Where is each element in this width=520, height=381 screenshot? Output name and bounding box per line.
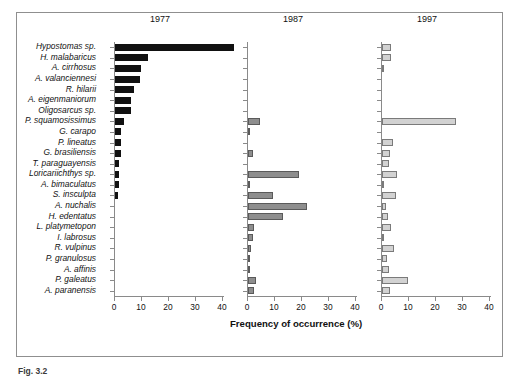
y-tick xyxy=(110,217,114,218)
bar xyxy=(248,213,283,220)
bar xyxy=(248,171,299,178)
bar xyxy=(248,266,250,273)
species-label: T. paraguayensis xyxy=(0,159,96,168)
bar xyxy=(382,118,456,125)
bar xyxy=(382,203,386,210)
species-label: Loricariichthys sp. xyxy=(0,169,96,178)
species-label: P. granulosus xyxy=(0,254,96,263)
bar xyxy=(115,150,121,157)
y-tick xyxy=(243,47,247,48)
y-tick xyxy=(377,248,381,249)
bar xyxy=(115,76,140,83)
y-tick xyxy=(377,153,381,154)
y-tick xyxy=(243,164,247,165)
bar xyxy=(382,287,390,294)
y-tick xyxy=(243,68,247,69)
plot-area-1977: 010203040 xyxy=(114,42,226,296)
x-axis-title: Frequency of occurrence (%) xyxy=(230,318,362,329)
y-tick xyxy=(377,185,381,186)
bar xyxy=(382,245,394,252)
y-tick xyxy=(377,132,381,133)
bar xyxy=(248,277,256,284)
y-tick xyxy=(110,90,114,91)
x-tick-label: 30 xyxy=(323,302,332,312)
x-tick-label: 40 xyxy=(350,302,359,312)
bar xyxy=(248,128,250,135)
y-tick xyxy=(110,164,114,165)
species-label: A. nuchalis xyxy=(0,201,96,210)
bar xyxy=(382,139,393,146)
y-tick xyxy=(110,121,114,122)
y-tick xyxy=(377,111,381,112)
y-tick xyxy=(377,206,381,207)
bar xyxy=(382,54,391,61)
species-label: Hypostomas sp. xyxy=(0,42,96,51)
bar xyxy=(382,181,384,188)
species-label: P. lineatus xyxy=(0,138,96,147)
y-tick xyxy=(377,217,381,218)
species-label: Oligosarcus sp. xyxy=(0,106,96,115)
y-tick xyxy=(243,280,247,281)
species-label: A. affinis xyxy=(0,265,96,274)
species-label: A. bimaculatus xyxy=(0,180,96,189)
x-tick xyxy=(408,297,409,301)
y-tick xyxy=(243,143,247,144)
y-tick xyxy=(243,153,247,154)
y-tick xyxy=(377,291,381,292)
y-tick xyxy=(243,121,247,122)
y-tick xyxy=(243,238,247,239)
x-tick-label: 0 xyxy=(245,302,250,312)
y-tick xyxy=(110,259,114,260)
y-tick xyxy=(243,248,247,249)
y-tick xyxy=(377,227,381,228)
y-tick xyxy=(377,280,381,281)
x-tick xyxy=(274,297,275,301)
y-tick xyxy=(110,206,114,207)
bar xyxy=(382,224,391,231)
x-axis xyxy=(247,296,357,297)
y-tick xyxy=(110,68,114,69)
y-tick xyxy=(377,143,381,144)
x-tick-label: 20 xyxy=(296,302,305,312)
bar xyxy=(382,65,384,72)
y-tick xyxy=(110,291,114,292)
bar xyxy=(248,245,251,252)
y-tick xyxy=(377,121,381,122)
bar xyxy=(382,213,388,220)
y-tick xyxy=(377,259,381,260)
bar xyxy=(115,54,148,61)
x-tick-label: 30 xyxy=(190,302,199,312)
bar xyxy=(382,266,389,273)
bar xyxy=(382,171,397,178)
x-tick-label: 40 xyxy=(484,302,493,312)
y-tick xyxy=(110,270,114,271)
bar xyxy=(248,224,254,231)
bar xyxy=(248,181,250,188)
x-tick-label: 20 xyxy=(163,302,172,312)
x-tick xyxy=(114,297,115,301)
panel-title-1987: 1987 xyxy=(283,14,303,24)
species-label: R. vulpinus xyxy=(0,243,96,252)
bar xyxy=(248,150,253,157)
y-tick xyxy=(110,132,114,133)
y-tick xyxy=(243,259,247,260)
bar xyxy=(248,118,260,125)
plot-area-1997: 010203040 xyxy=(381,42,493,296)
x-tick xyxy=(381,297,382,301)
bar xyxy=(115,160,119,167)
x-tick-label: 10 xyxy=(269,302,278,312)
y-tick xyxy=(243,100,247,101)
x-axis xyxy=(381,296,491,297)
y-tick xyxy=(110,227,114,228)
bar xyxy=(248,287,254,294)
bar xyxy=(248,192,273,199)
y-tick xyxy=(110,280,114,281)
y-tick xyxy=(110,174,114,175)
y-tick xyxy=(110,58,114,59)
y-tick xyxy=(110,185,114,186)
y-tick xyxy=(243,58,247,59)
x-tick-label: 30 xyxy=(457,302,466,312)
y-tick xyxy=(243,270,247,271)
y-tick xyxy=(110,195,114,196)
x-axis xyxy=(114,296,224,297)
